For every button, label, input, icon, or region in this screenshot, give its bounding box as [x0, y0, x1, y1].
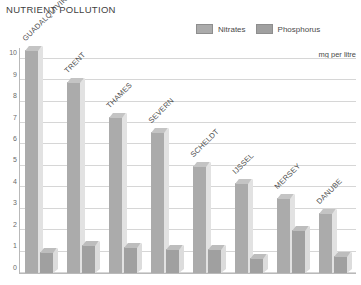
- bar-face: [277, 198, 290, 273]
- legend-swatch-nitrates: [196, 24, 213, 34]
- bar-face: [82, 245, 95, 273]
- bar-side-face: [305, 226, 310, 273]
- y-axis-tick-label: 0: [13, 263, 17, 270]
- bar-danube-nitrates: [319, 213, 332, 273]
- bar-face: [235, 183, 248, 273]
- y-axis-tick-label: 3: [13, 199, 17, 206]
- bar-face: [166, 249, 179, 273]
- bar-thames-phosphorus: [124, 247, 137, 273]
- legend-swatch-phosphorus: [256, 24, 273, 34]
- gridline: [20, 58, 356, 59]
- y-axis-tick-label: 8: [13, 92, 17, 99]
- bar-side-face: [95, 241, 100, 273]
- x-axis-category-label: THAMES: [105, 80, 134, 109]
- bar-side-face: [179, 246, 184, 273]
- bar-face: [151, 132, 164, 273]
- bar-ijssel-nitrates: [235, 183, 248, 273]
- bar-trent-nitrates: [67, 82, 80, 273]
- bar-guadalquivir-phosphorus: [40, 252, 53, 273]
- y-axis-tick-label: 2: [13, 220, 17, 227]
- nutrient-pollution-chart: NUTRIENT POLLUTION Nitrates Phosphorus m…: [0, 0, 361, 285]
- bar-face: [292, 230, 305, 273]
- bar-trent-phosphorus: [82, 245, 95, 273]
- bar-face: [109, 117, 122, 273]
- y-axis-tick-label: 9: [13, 70, 17, 77]
- bar-side-face: [137, 243, 142, 273]
- bar-mersey-nitrates: [277, 198, 290, 273]
- x-axis-category-label: DANUBE: [315, 177, 344, 206]
- bar-scheldt-nitrates: [193, 166, 206, 273]
- bar-face: [208, 249, 221, 273]
- bar-face: [193, 166, 206, 273]
- legend-entry-nitrates: Nitrates: [196, 24, 246, 34]
- chart-legend: Nitrates Phosphorus: [196, 24, 320, 34]
- bar-mersey-phosphorus: [292, 230, 305, 273]
- x-axis-category-label: TRENT: [63, 51, 88, 76]
- y-axis-tick-label: 6: [13, 134, 17, 141]
- x-axis-category-label: IJSSEL: [231, 151, 256, 176]
- bar-face: [40, 252, 53, 273]
- bar-severn-nitrates: [151, 132, 164, 273]
- legend-label-nitrates: Nitrates: [218, 25, 246, 34]
- bar-ijssel-phosphorus: [250, 258, 263, 273]
- bar-face: [334, 256, 347, 273]
- bar-face: [319, 213, 332, 273]
- bar-face: [67, 82, 80, 273]
- bar-side-face: [221, 246, 226, 273]
- bar-face: [25, 50, 38, 273]
- legend-label-phosphorus: Phosphorus: [278, 25, 321, 34]
- bar-face: [124, 247, 137, 273]
- y-axis-tick-label: 10: [9, 49, 17, 56]
- y-axis-tick-label: 5: [13, 156, 17, 163]
- bar-thames-nitrates: [109, 117, 122, 273]
- bar-severn-phosphorus: [166, 249, 179, 273]
- bar-danube-phosphorus: [334, 256, 347, 273]
- bar-side-face: [38, 46, 43, 273]
- plot-area: 012345678910GUADALQUIVIRTRENTTHAMESSEVER…: [19, 48, 356, 274]
- bar-face: [250, 258, 263, 273]
- bar-scheldt-phosphorus: [208, 249, 221, 273]
- y-axis-tick-label: 7: [13, 113, 17, 120]
- bar-guadalquivir-nitrates: [25, 50, 38, 273]
- y-axis-tick-label: 1: [13, 242, 17, 249]
- legend-entry-phosphorus: Phosphorus: [256, 24, 321, 34]
- y-axis-tick-label: 4: [13, 177, 17, 184]
